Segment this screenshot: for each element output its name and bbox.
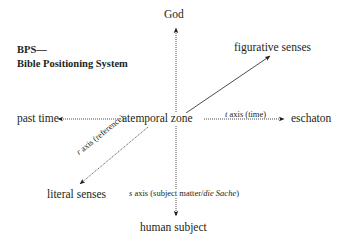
label-atemporal-zone: atemporal zone (121, 113, 194, 125)
r-axis-upper-line (186, 56, 270, 113)
label-figurative-senses: figurative senses (234, 42, 311, 54)
title-line-1: BPS— (17, 43, 128, 57)
t-axis-text: axis (time) (227, 109, 266, 119)
label-human-subject: human subject (140, 222, 207, 234)
label-eschaton: eschaton (291, 113, 331, 125)
s-axis-text-a: axis (subject matter/ (132, 188, 203, 198)
s-axis-label: s axis (subject matter/die Sache) (129, 189, 239, 198)
label-literal-senses: literal senses (47, 189, 106, 201)
t-axis-label: t axis (time) (225, 110, 266, 119)
s-axis-text-b: die Sache (203, 188, 236, 198)
title-line-2: Bible Positioning System (17, 57, 128, 71)
diagram-title: BPS— Bible Positioning System (17, 43, 128, 71)
label-past-time: past time (17, 113, 59, 125)
label-god: God (164, 9, 184, 21)
s-axis-text-c: ) (236, 188, 239, 198)
